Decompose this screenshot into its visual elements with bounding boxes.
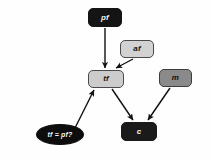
node-m[interactable]: m <box>159 69 192 87</box>
node-c[interactable]: c <box>121 122 157 141</box>
node-label-pf: pf <box>101 14 109 22</box>
edge-m-to-c <box>148 88 170 120</box>
node-label-c: c <box>137 128 142 136</box>
node-tf[interactable]: tf <box>88 70 124 88</box>
node-label-tf: tf <box>103 75 109 83</box>
node-label-m: m <box>172 74 179 82</box>
diagram-canvas: pfaftfmctf = pf? <box>0 0 212 161</box>
node-label-af: af <box>133 45 141 53</box>
node-label-tf-eq-pf: tf = pf? <box>47 131 72 138</box>
node-pf[interactable]: pf <box>88 8 122 27</box>
edge-tfeqpf-to-tf <box>75 90 94 128</box>
node-af[interactable]: af <box>120 40 154 58</box>
node-tf-eq-pf[interactable]: tf = pf? <box>36 124 84 145</box>
edge-tf-to-c <box>112 89 133 120</box>
edge-af-to-tf <box>116 59 133 68</box>
